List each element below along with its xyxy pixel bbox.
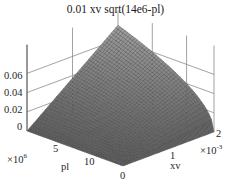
xv-tick-label: 2	[216, 128, 221, 139]
z-tick-label: 0.04	[4, 87, 22, 98]
xv-axis-label: xv	[170, 160, 181, 171]
pl-axis-label: pl	[61, 161, 69, 172]
pl-tick-label: 10	[84, 156, 95, 167]
xv-tick-label: 0	[120, 170, 125, 181]
surface-plot	[0, 0, 231, 187]
z-tick-label: 0.06	[4, 70, 22, 81]
xv-multiplier: ×10-3	[200, 143, 222, 156]
pl-tick-label: 5	[53, 143, 58, 154]
pl-multiplier: ×106	[7, 152, 27, 165]
z-tick-label: 0	[17, 121, 22, 132]
z-tick-label: 0.02	[4, 104, 22, 115]
